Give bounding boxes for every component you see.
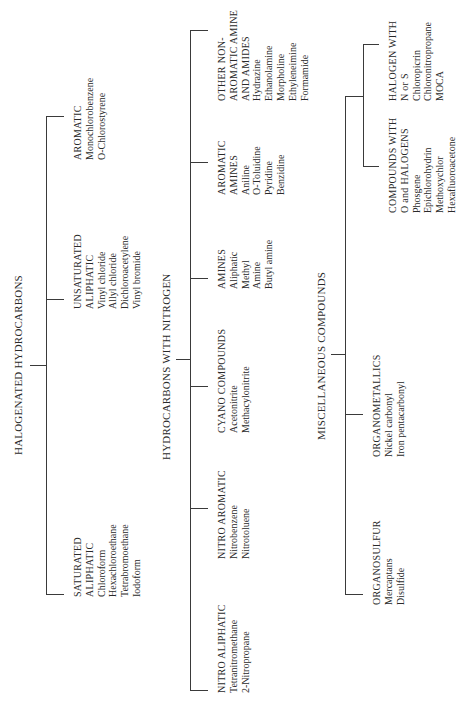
compound-item: Acetonitrite — [228, 329, 240, 433]
compound-item: 2-Nitropropane — [240, 604, 252, 693]
compound-item: O-Toluidine — [251, 140, 263, 195]
group-aromatic: AROMATIC Monochlorobenzene O-Chlorostyre… — [72, 78, 107, 160]
compound-item: Disulfide — [395, 520, 407, 605]
compound-item: Hexafluoroacetone — [446, 118, 458, 213]
section-title: HYDROCARBONS WITH NITROGEN — [160, 274, 172, 461]
section-title: MISCELLANEOUS COMPOUNDS — [315, 272, 327, 440]
connector-line — [363, 44, 379, 45]
compound-item: Morpholine — [275, 10, 287, 101]
group-heading: SATURATED — [72, 524, 84, 597]
connector-line — [345, 96, 363, 97]
connector-line — [331, 354, 345, 355]
compound-item: Mercaptans — [383, 520, 395, 605]
group-heading: OTHER NON- — [216, 10, 228, 101]
group-heading: AMINES — [228, 140, 240, 195]
connector-line — [363, 166, 379, 167]
compound-item: Chloroform — [96, 524, 108, 597]
group-organosulfur: ORGANOSULFUR Mercaptans Disulfide — [371, 520, 406, 605]
compound-item: Epichlorohydrin — [422, 118, 434, 213]
compound-item: Dichloroacetylene — [119, 234, 131, 309]
group-heading: ALIPHATIC — [84, 234, 96, 309]
connector-line — [345, 594, 363, 595]
connector-line — [190, 508, 208, 509]
group-heading: ALIPHATIC — [84, 524, 96, 597]
group-halogen-with-n-or-s: HALOGEN WITH N or S Chloropicrin Chloron… — [387, 21, 446, 101]
compound-item: Methyl — [240, 240, 252, 289]
group-heading: NITRO AROMATIC — [216, 470, 228, 559]
group-heading: CYANO COMPOUNDS — [216, 329, 228, 433]
group-heading: HALOGEN WITH — [387, 21, 399, 101]
connector-line — [190, 278, 208, 279]
section-miscellaneous-compounds: MISCELLANEOUS COMPOUNDS ORGANOSULFUR Mer… — [305, 0, 463, 715]
compound-item: MOCA — [434, 21, 446, 101]
compound-item: Butyl amine — [263, 240, 275, 289]
compound-item: Benzidine — [275, 140, 287, 195]
connector-line — [190, 690, 208, 691]
connector-line — [30, 365, 46, 366]
compound-item: Aniline — [240, 140, 252, 195]
compound-item: Ethanolamine — [263, 10, 275, 101]
connector-line — [345, 97, 346, 595]
compound-item: Methacylonitrite — [240, 329, 252, 433]
group-nitro-aromatic: NITRO AROMATIC Nitrobenzene Nitrotoluene — [216, 470, 251, 559]
group-cyano-compounds: CYANO COMPOUNDS Acetonitrite Methacyloni… — [216, 329, 251, 433]
compound-item: Nitrotoluene — [240, 470, 252, 559]
compound-item: Hydrazine — [251, 10, 263, 101]
group-aromatic-amines: AROMATIC AMINES Aniline O-Toluidine Pyri… — [216, 140, 287, 195]
group-heading: UNSATURATED — [72, 234, 84, 309]
compound-item: Monochlorobenzene — [84, 78, 96, 160]
connector-line — [46, 116, 64, 117]
group-amines: AMINES Aliphatic Methyl Amine Butyl amin… — [216, 240, 275, 289]
group-heading: AROMATIC — [216, 140, 228, 195]
compound-item: Aliphatic — [228, 240, 240, 289]
group-nitro-aliphatic: NITRO ALIPHATIC Tetranitromethane 2-Nitr… — [216, 604, 251, 693]
connector-line — [345, 414, 363, 415]
connector-line — [46, 299, 64, 300]
compound-item: Ethyleneimine — [287, 10, 299, 101]
compound-item: Chloropicrin — [411, 21, 423, 101]
compound-item: Nickel carbonyl — [383, 354, 395, 457]
group-heading: AROMATIC AMINE — [228, 10, 240, 101]
compound-item: O-Chlorostyrene — [96, 78, 108, 160]
group-compounds-with-o-and-halogens: COMPOUNDS WITH O and HALOGENS Phosgene E… — [387, 118, 458, 213]
compound-item: Allyl chloride — [107, 234, 119, 309]
group-heading: N or S — [399, 21, 411, 101]
group-other-non-aromatic-amines-amides: OTHER NON- AROMATIC AMINE AND AMIDES Hyd… — [216, 10, 310, 101]
group-heading: AMINES — [216, 240, 228, 289]
compound-item: Methoxychlor — [434, 118, 446, 213]
connector-line — [46, 594, 64, 595]
group-unsaturated-aliphatic: UNSATURATED ALIPHATIC Vinyl chloride All… — [72, 234, 143, 309]
group-heading: COMPOUNDS WITH — [387, 118, 399, 213]
connector-line — [190, 31, 191, 691]
compound-item: Tetranitromethane — [228, 604, 240, 693]
compound-item: Vinyl chloride — [96, 234, 108, 309]
group-heading: ORGANOMETALLICS — [371, 354, 383, 457]
connector-line — [190, 386, 208, 387]
group-heading: ORGANOSULFUR — [371, 520, 383, 605]
compound-item: Iron pentacarbonyl — [395, 354, 407, 457]
connector-line — [363, 45, 364, 167]
compound-item: Phosgene — [411, 118, 423, 213]
compound-item: Amine — [251, 240, 263, 289]
compound-item: Hexachloroethane — [107, 524, 119, 597]
compound-item: Tetrabromoethane — [119, 524, 131, 597]
compound-item: Vinyl bromide — [131, 234, 143, 309]
compound-item: Iodoform — [131, 524, 143, 597]
group-heading: AND AMIDES — [240, 10, 252, 101]
classification-diagram: HALOGENATED HYDROCARBONS SATURATED ALIPH… — [0, 0, 463, 715]
group-heading: AROMATIC — [72, 78, 84, 160]
group-saturated-aliphatic: SATURATED ALIPHATIC Chloroform Hexachlor… — [72, 524, 143, 597]
compound-item: Pyridine — [263, 140, 275, 195]
compound-item: Chloronitropropane — [422, 21, 434, 101]
compound-item: Nitrobenzene — [228, 470, 240, 559]
connector-line — [176, 359, 190, 360]
section-halogenated-hydrocarbons: HALOGENATED HYDROCARBONS SATURATED ALIPH… — [0, 0, 150, 715]
section-title: HALOGENATED HYDROCARBONS — [12, 275, 24, 455]
section-hydrocarbons-with-nitrogen: HYDROCARBONS WITH NITROGEN NITRO ALIPHAT… — [150, 0, 310, 715]
group-heading: O and HALOGENS — [399, 118, 411, 213]
connector-line — [46, 117, 47, 595]
group-heading: NITRO ALIPHATIC — [216, 604, 228, 693]
connector-line — [190, 162, 208, 163]
connector-line — [190, 30, 208, 31]
group-organometallics: ORGANOMETALLICS Nickel carbonyl Iron pen… — [371, 354, 406, 457]
